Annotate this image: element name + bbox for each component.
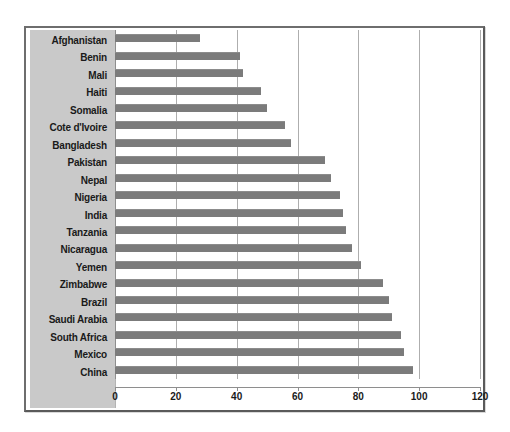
bar-row[interactable] [115, 222, 480, 239]
category-label-mali: Mali [88, 67, 107, 84]
bar-row[interactable] [115, 135, 480, 152]
bar-row[interactable] [115, 117, 480, 134]
bar-bangladesh[interactable] [115, 139, 291, 147]
bar-row[interactable] [115, 257, 480, 274]
bar-nigeria[interactable] [115, 191, 340, 199]
bar-rows [115, 30, 480, 379]
bar-zimbabwe[interactable] [115, 279, 383, 287]
category-label-india: India [85, 207, 107, 224]
category-label-cote-d-ivoire: Cote d'Ivoire [49, 119, 107, 136]
category-label-tanzania: Tanzania [67, 224, 107, 241]
bar-row[interactable] [115, 82, 480, 99]
bar-tanzania[interactable] [115, 226, 346, 234]
category-label-china: China [80, 364, 107, 381]
x-tick-label-0: 0 [112, 391, 118, 402]
bar-row[interactable] [115, 187, 480, 204]
x-tick-label-120: 120 [472, 391, 489, 402]
bar-row[interactable] [115, 30, 480, 47]
bar-row[interactable] [115, 239, 480, 256]
bar-row[interactable] [115, 47, 480, 64]
bar-haiti[interactable] [115, 87, 261, 95]
category-label-nepal: Nepal [81, 172, 107, 189]
category-label-pakistan: Pakistan [67, 154, 107, 171]
bar-row[interactable] [115, 100, 480, 117]
bar-afghanistan[interactable] [115, 34, 200, 42]
x-tick-label-100: 100 [411, 391, 428, 402]
bar-pakistan[interactable] [115, 156, 325, 164]
chart-frame: AfghanistanBeninMaliHaitiSomaliaCote d'I… [24, 26, 485, 412]
bar-benin[interactable] [115, 52, 240, 60]
bar-south-africa[interactable] [115, 331, 401, 339]
bar-brazil[interactable] [115, 296, 389, 304]
bar-nepal[interactable] [115, 174, 331, 182]
x-axis-tick-labels: 020406080100120 [115, 391, 480, 407]
x-axis-line [115, 387, 480, 388]
category-label-saudi-arabia: Saudi Arabia [49, 311, 107, 328]
bar-row[interactable] [115, 327, 480, 344]
bar-row[interactable] [115, 205, 480, 222]
category-label-mexico: Mexico [74, 346, 107, 363]
plot-area [115, 30, 480, 379]
bar-mali[interactable] [115, 69, 243, 77]
x-tick-label-80: 80 [353, 391, 364, 402]
bar-nicaragua[interactable] [115, 244, 352, 252]
bar-somalia[interactable] [115, 104, 267, 112]
category-label-nicaragua: Nicaragua [60, 241, 107, 258]
category-label-haiti: Haiti [86, 84, 107, 101]
axis-label-strip [30, 391, 115, 407]
x-tick-label-40: 40 [231, 391, 242, 402]
bar-row[interactable] [115, 344, 480, 361]
bar-row[interactable] [115, 65, 480, 82]
chart-inner: AfghanistanBeninMaliHaitiSomaliaCote d'I… [26, 28, 483, 410]
bar-yemen[interactable] [115, 261, 361, 269]
category-label-somalia: Somalia [70, 102, 107, 119]
x-tick-label-60: 60 [292, 391, 303, 402]
x-tick-label-20: 20 [170, 391, 181, 402]
category-label-south-africa: South Africa [50, 329, 107, 346]
gridline-120 [480, 30, 481, 379]
category-label-afghanistan: Afghanistan [51, 32, 107, 49]
bar-row[interactable] [115, 309, 480, 326]
bar-row[interactable] [115, 362, 480, 379]
category-label-yemen: Yemen [76, 259, 107, 276]
bar-china[interactable] [115, 366, 413, 374]
bar-row[interactable] [115, 170, 480, 187]
category-label-nigeria: Nigeria [74, 189, 107, 206]
bar-saudi-arabia[interactable] [115, 313, 392, 321]
category-label-panel: AfghanistanBeninMaliHaitiSomaliaCote d'I… [30, 30, 116, 408]
bar-mexico[interactable] [115, 348, 404, 356]
bar-row[interactable] [115, 152, 480, 169]
category-label-bangladesh: Bangladesh [52, 137, 107, 154]
bar-row[interactable] [115, 274, 480, 291]
bar-india[interactable] [115, 209, 343, 217]
bar-row[interactable] [115, 292, 480, 309]
category-label-benin: Benin [80, 49, 107, 66]
bar-cote-d-ivoire[interactable] [115, 121, 285, 129]
category-label-zimbabwe: Zimbabwe [60, 276, 107, 293]
category-label-brazil: Brazil [81, 294, 107, 311]
